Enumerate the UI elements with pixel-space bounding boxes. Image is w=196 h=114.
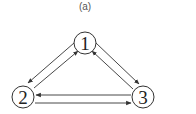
node-3-label: 3 [138, 87, 148, 108]
node-1-label: 1 [80, 33, 90, 54]
edge-1-to-3 [96, 43, 139, 84]
node-3: 3 [132, 86, 154, 108]
edge-3-to-1 [92, 51, 133, 89]
directed-graph: 1 2 3 [0, 0, 196, 114]
edge-1-to-2 [28, 43, 74, 83]
node-1: 1 [74, 32, 96, 54]
node-2-label: 2 [18, 87, 28, 108]
node-2: 2 [12, 86, 34, 108]
edge-2-to-1 [34, 51, 78, 88]
